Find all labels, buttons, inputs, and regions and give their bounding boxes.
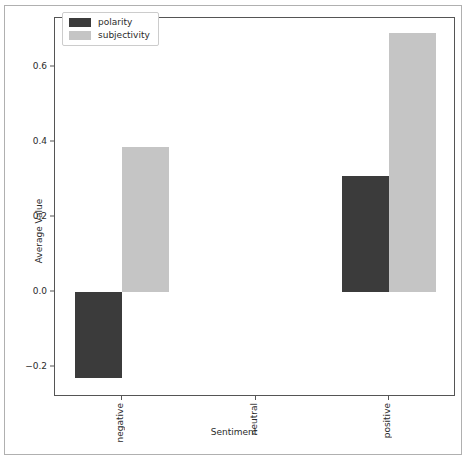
legend-entry-polarity: polarity	[69, 18, 150, 27]
bar-positive-polarity	[342, 176, 389, 292]
x-tick-mark	[255, 396, 256, 400]
bars-layer	[55, 18, 454, 395]
y-tick-label: −0.2	[25, 361, 47, 370]
y-tick-label: 0.0	[33, 286, 47, 295]
x-tick-mark	[388, 396, 389, 400]
x-tick-mark	[121, 396, 122, 400]
y-axis-label: Average Value	[34, 199, 44, 264]
plot-area	[54, 17, 455, 396]
y-tick-mark	[50, 290, 54, 291]
y-tick-label: 0.6	[33, 61, 47, 70]
bar-negative-subjectivity	[122, 147, 169, 291]
y-tick-mark	[50, 140, 54, 141]
legend-swatch-icon	[69, 18, 91, 27]
chart-legend: polaritysubjectivity	[62, 12, 159, 46]
y-tick-mark	[50, 365, 54, 366]
legend-entry-subjectivity: subjectivity	[69, 31, 150, 40]
legend-swatch-icon	[69, 31, 91, 40]
bar-negative-polarity	[75, 292, 122, 378]
x-axis-label: Sentiment	[0, 427, 468, 437]
legend-label: subjectivity	[98, 31, 150, 40]
legend-label: polarity	[98, 18, 132, 27]
y-tick-mark	[50, 65, 54, 66]
figure-canvas: 0.60.40.20.0−0.2 Average Value negativen…	[0, 0, 468, 462]
y-tick-mark	[50, 215, 54, 216]
y-tick-label: 0.4	[33, 136, 47, 145]
bar-positive-subjectivity	[389, 33, 436, 292]
